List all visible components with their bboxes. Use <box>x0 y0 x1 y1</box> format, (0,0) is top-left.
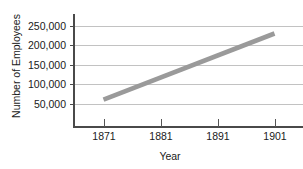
data-line-employees <box>104 34 275 100</box>
line-chart: Number of Employees Year 50,000100,00015… <box>0 0 303 169</box>
series-layer <box>0 0 303 169</box>
